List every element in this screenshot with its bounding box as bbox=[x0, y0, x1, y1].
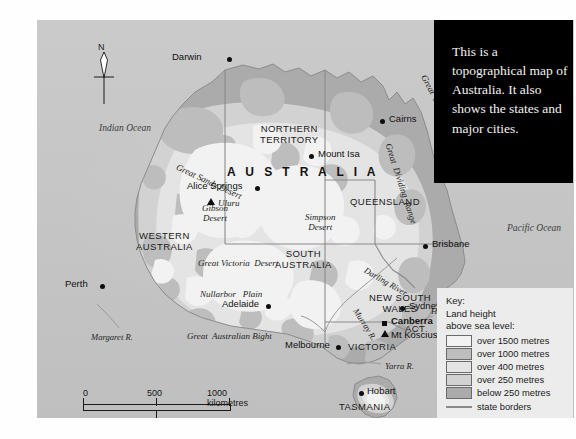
feature-label-great-australian-bight: Great Australian Bight bbox=[187, 331, 272, 341]
city-label-sydney: Sydney bbox=[409, 301, 441, 312]
key-label-1000: over 1000 metres bbox=[477, 349, 549, 359]
scale-tick-right-top bbox=[229, 398, 230, 406]
ocean-label-pacific: Pacific Ocean bbox=[507, 223, 561, 234]
state-label-western-australia: WESTERN AUSTRALIA bbox=[136, 231, 193, 252]
key-row-1500: over 1500 metres bbox=[446, 335, 573, 347]
city-marker-canberra bbox=[382, 321, 387, 326]
city-label-brisbane: Brisbane bbox=[432, 239, 470, 250]
compass-north-label: N bbox=[98, 42, 105, 52]
state-label-victoria: VICTORIA bbox=[348, 342, 396, 353]
city-label-mount-isa: Mount Isa bbox=[318, 149, 360, 160]
key-row-250: over 250 metres bbox=[446, 374, 573, 386]
city-marker-brisbane bbox=[423, 244, 428, 249]
city-label-canberra: Canberra bbox=[391, 316, 433, 327]
key-subtitle-1: Land height bbox=[446, 308, 573, 321]
scale-bar: 0 500 1000 kilometres 0 300 600 miles bbox=[83, 388, 253, 418]
city-marker-darwin bbox=[227, 57, 232, 62]
key-row-400: over 400 metres bbox=[446, 361, 573, 373]
scale-km-500: 500 bbox=[147, 388, 162, 398]
city-marker-perth bbox=[100, 284, 105, 289]
peak-marker-mt-kosciuszko bbox=[381, 330, 389, 337]
peak-label-uluru: Uluru bbox=[218, 198, 240, 208]
city-marker-alice-springs bbox=[255, 186, 260, 191]
city-label-alice-springs: Alice Springs bbox=[187, 181, 242, 192]
key-row-state-borders: state borders bbox=[446, 402, 573, 412]
caption-text: This is a topographical map of Australia… bbox=[452, 42, 573, 138]
city-marker-cairns bbox=[380, 119, 385, 124]
key-label-400: over 400 metres bbox=[477, 362, 544, 372]
key-subtitle-2: above sea level: bbox=[446, 320, 573, 333]
state-label-northern-territory: NORTHERN TERRITORY bbox=[260, 124, 319, 145]
city-label-hobart: Hobart bbox=[367, 386, 396, 397]
city-marker-melbourne bbox=[336, 345, 341, 350]
feature-label-great-victoria-desert: Great Victoria Desert bbox=[198, 258, 278, 268]
city-label-perth: Perth bbox=[65, 279, 88, 290]
compass-needle-icon bbox=[92, 44, 116, 106]
state-label-tasmania: TASMANIA bbox=[339, 402, 390, 413]
key-row-below-250: below 250 metres bbox=[446, 387, 573, 399]
key-swatch-250 bbox=[446, 374, 472, 386]
key-label-1500: over 1500 metres bbox=[477, 336, 549, 346]
scale-km-0: 0 bbox=[83, 388, 88, 398]
country-label-australia: A U S T R A L I A bbox=[227, 166, 379, 179]
city-label-darwin: Darwin bbox=[172, 52, 202, 63]
scale-tick-mid-bottom bbox=[156, 410, 157, 418]
key-row-1000: over 1000 metres bbox=[446, 348, 573, 360]
key-title: Key: bbox=[446, 295, 573, 308]
caption-box: This is a topographical map of Australia… bbox=[434, 20, 573, 183]
city-marker-adelaide bbox=[266, 304, 271, 309]
river-label-yarra: Yarra R. bbox=[385, 362, 414, 372]
key-swatch-state-borders bbox=[446, 406, 472, 408]
feature-label-simpson-desert: Simpson Desert bbox=[305, 212, 336, 232]
city-marker-hobart bbox=[359, 391, 364, 396]
key-swatch-400 bbox=[446, 361, 472, 373]
city-marker-sydney bbox=[400, 306, 405, 311]
scale-tick-mid-top bbox=[156, 398, 157, 406]
map-page: N Indian Ocean Pacific Ocean A U S T R A… bbox=[0, 0, 576, 439]
key-swatch-1000 bbox=[446, 348, 472, 360]
ocean-label-indian: Indian Ocean bbox=[99, 123, 151, 134]
key-swatch-1500 bbox=[446, 335, 472, 347]
key-label-250: over 250 metres bbox=[477, 375, 544, 385]
city-label-adelaide: Adelaide bbox=[222, 299, 259, 310]
compass-rose: N bbox=[92, 44, 116, 106]
city-label-melbourne: Melbourne bbox=[285, 340, 330, 351]
key-label-state-borders: state borders bbox=[477, 402, 531, 412]
city-marker-mount-isa bbox=[309, 154, 314, 159]
scale-tick-left-top bbox=[83, 398, 84, 406]
river-label-margaret: Margaret R. bbox=[91, 333, 133, 343]
key-swatch-below-250 bbox=[446, 387, 472, 399]
state-label-south-australia: SOUTH AUSTRALIA bbox=[275, 249, 332, 270]
peak-marker-uluru bbox=[207, 198, 215, 205]
key-label-below-250: below 250 metres bbox=[477, 388, 550, 398]
map-key: Key: Land height above sea level: over 1… bbox=[437, 288, 573, 418]
city-label-cairns: Cairns bbox=[389, 114, 416, 125]
